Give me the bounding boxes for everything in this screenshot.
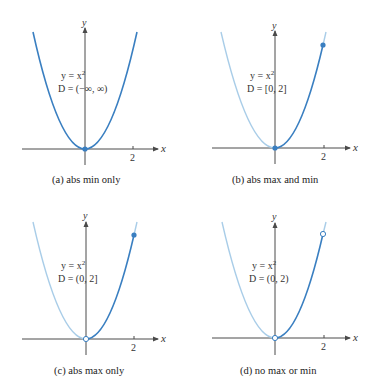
max-point-closed (320, 42, 325, 47)
equation-label: y = x2 (250, 69, 275, 81)
caption: (c) abs max only (54, 365, 125, 377)
domain-label: D = (0, 2) (249, 273, 289, 285)
curve-dark (86, 235, 134, 339)
min-point-open (83, 336, 88, 341)
x-tick-label: 2 (130, 152, 135, 163)
max-point-open (320, 231, 325, 236)
domain-label: D = (0, 2] (58, 273, 98, 285)
x-axis-label: x (160, 332, 166, 344)
y-axis-label: y (82, 210, 88, 221)
equation-label: y = x2 (61, 259, 86, 271)
equation-label: y = x2 (61, 69, 86, 81)
x-tick-label: 2 (131, 342, 136, 353)
x-tick-label: 2 (321, 151, 326, 162)
max-point-closed (131, 232, 136, 237)
x-axis-label: x (160, 142, 166, 154)
y-axis-label: y (271, 20, 277, 31)
domain-label: D = [0, 2] (247, 83, 287, 94)
curve-dark (275, 45, 323, 148)
min-point-closed (272, 145, 277, 150)
y-axis-label: y (271, 211, 277, 222)
min-point-closed (82, 146, 87, 151)
x-axis-label: x (352, 331, 358, 343)
y-axis-label: y (81, 17, 87, 28)
x-axis-label: x (352, 141, 358, 153)
figure: x y 2 y = x2 D = (−∞, ∞) (a) abs min onl… (0, 0, 372, 389)
panel-d: x y 2 y = x2 D = (0, 2) (d) no max or mi… (212, 211, 358, 377)
min-point-open (272, 335, 277, 340)
curve-dark (275, 234, 323, 338)
equation-label: y = x2 (252, 259, 277, 271)
panel-b: x y 2 y = x2 D = [0, 2] (b) abs max and … (212, 20, 358, 186)
caption: (b) abs max and min (232, 174, 319, 186)
x-tick-label: 2 (321, 341, 326, 352)
panel-c: x y 2 y = x2 D = (0, 2] (c) abs max only (22, 210, 166, 377)
domain-label: D = (−∞, ∞) (58, 83, 107, 95)
caption: (d) no max or min (240, 365, 317, 377)
panel-a: x y 2 y = x2 D = (−∞, ∞) (a) abs min onl… (22, 17, 166, 186)
caption: (a) abs min only (52, 174, 121, 186)
